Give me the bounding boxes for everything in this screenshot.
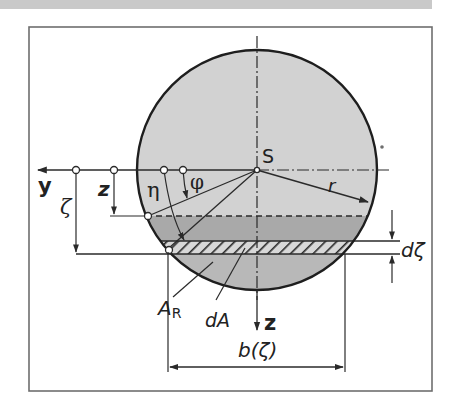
z-chord-node bbox=[145, 213, 152, 220]
zeta-label: ζ bbox=[60, 195, 73, 219]
phi-origin-node bbox=[180, 167, 187, 174]
eta-label: η bbox=[147, 178, 160, 202]
residual-area-subscript: R bbox=[172, 305, 182, 321]
eta-origin-node bbox=[161, 167, 168, 174]
residual-area-main: A bbox=[156, 296, 172, 320]
residual-area-label: AR bbox=[156, 296, 182, 321]
phi-label: φ bbox=[190, 170, 204, 194]
top-band bbox=[0, 0, 432, 9]
z-origin-node bbox=[111, 167, 118, 174]
zeta-origin-node bbox=[73, 167, 80, 174]
centroid-label: S bbox=[262, 145, 274, 167]
cross-section-diagram: S r y z ζ η φ AR dA z b(ζ) dζ bbox=[0, 0, 457, 411]
z-axis-label: z bbox=[264, 311, 276, 335]
strip-thickness-label: dζ bbox=[401, 238, 426, 262]
strip-chord-node bbox=[166, 247, 173, 254]
z-dimension-label: z bbox=[97, 177, 110, 201]
strip-area-label: dA bbox=[205, 309, 230, 331]
centroid-node bbox=[254, 167, 259, 172]
strip-width-label: b(ζ) bbox=[238, 338, 277, 362]
y-axis-label: y bbox=[38, 174, 52, 198]
stray-dot bbox=[380, 145, 384, 149]
